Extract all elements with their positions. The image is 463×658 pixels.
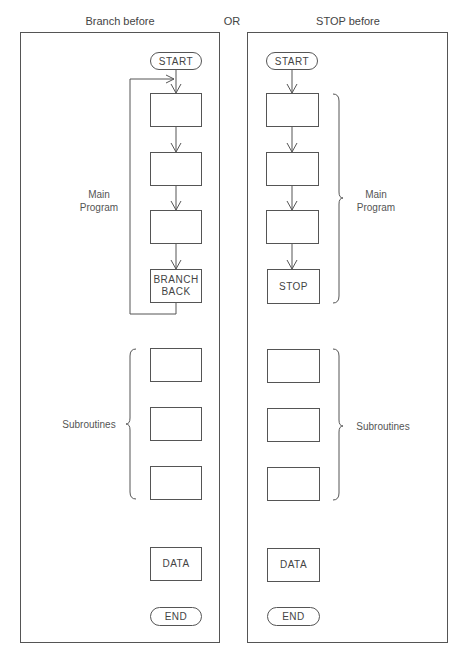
left-main-box-1 (150, 93, 202, 127)
left-subroutine-box-2 (150, 407, 202, 441)
left-branch-back-box: BRANCH BACK (150, 269, 202, 303)
left-main-box-2 (150, 152, 202, 186)
branch-label: BRANCH (153, 274, 198, 286)
right-subroutine-box-2 (267, 408, 320, 442)
main-label-line1: Main (348, 188, 404, 201)
right-main-box-3 (266, 210, 319, 244)
left-data-box: DATA (150, 547, 202, 581)
left-main-box-3 (150, 210, 202, 244)
left-subroutine-box-3 (150, 466, 202, 500)
main-label-line2: Program (348, 201, 404, 214)
main-label-line1: Main (70, 188, 128, 201)
left-end-terminal: END (150, 607, 202, 626)
right-subroutine-box-1 (267, 349, 320, 383)
left-start-terminal: START (150, 52, 202, 70)
left-subroutine-box-1 (150, 348, 202, 382)
left-subroutines-label: Subroutines (56, 418, 122, 431)
right-subroutine-box-3 (267, 467, 320, 501)
back-label: BACK (161, 286, 190, 298)
right-subroutines-label: Subroutines (350, 420, 416, 433)
main-label-line2: Program (70, 201, 128, 214)
right-stop-box: STOP (267, 269, 320, 304)
right-start-terminal: START (266, 52, 318, 70)
right-end-terminal: END (267, 607, 320, 626)
connector-lines (0, 0, 463, 658)
left-main-program-label: Main Program (70, 188, 128, 214)
right-main-program-label: Main Program (348, 188, 404, 214)
right-data-box: DATA (267, 548, 320, 582)
right-main-box-2 (266, 152, 319, 186)
right-main-box-1 (266, 93, 319, 127)
